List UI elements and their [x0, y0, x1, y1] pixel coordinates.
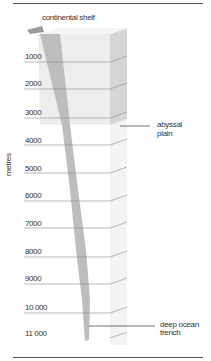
depth-tick-2000: 2000	[25, 79, 41, 88]
trench-label-line2: trench	[160, 328, 180, 337]
depth-tick-3000: 3000	[25, 108, 41, 117]
depth-tick-5000: 5000	[25, 164, 41, 173]
depth-tick-6000: 6000	[25, 191, 41, 200]
depth-tick-11000: 11 000	[25, 329, 46, 338]
depth-tick-9000: 9000	[25, 274, 41, 283]
depth-tick-8000: 8000	[25, 247, 41, 256]
abyssal-plain-label-line1: abyssal	[157, 120, 182, 129]
depth-tick-10000: 10 000	[25, 303, 47, 312]
abyssal-plain-label-line2: plain	[157, 129, 172, 138]
depth-tick-1000: 1000	[25, 52, 41, 61]
depth-tick-7000: 7000	[25, 219, 41, 228]
axis-label-metres: metres	[4, 153, 13, 176]
depth-tick-4000: 4000	[25, 136, 41, 145]
